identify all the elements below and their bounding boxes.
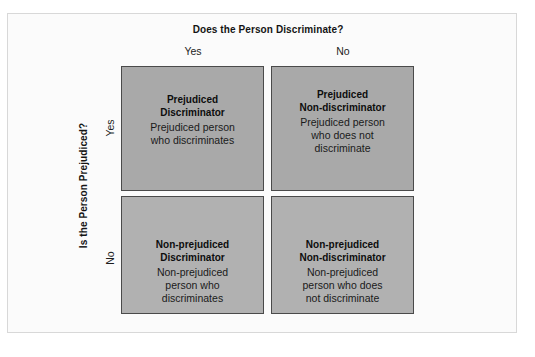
row-label-no: No	[104, 198, 116, 318]
row-label-yes: Yes	[104, 68, 116, 188]
quadrant-description: Prejudiced person who discriminates	[150, 121, 235, 147]
quadrant-non-prejudiced-discriminator: Non-prejudiced Discriminator Non-prejudi…	[121, 196, 264, 314]
column-label-yes: Yes	[122, 45, 264, 57]
row-axis-title: Is the Person Prejudiced?	[78, 76, 89, 296]
figure-root: Does the Person Discriminate? Yes No Is …	[0, 0, 535, 357]
quadrant-description: Non-prejudiced person who does not discr…	[303, 266, 383, 305]
quadrant-non-prejudiced-non-discriminator: Non-prejudiced Non-discriminator Non-pre…	[271, 196, 414, 314]
quadrant-title: Prejudiced Non-discriminator	[299, 89, 385, 114]
quadrant-prejudiced-discriminator: Prejudiced Discriminator Prejudiced pers…	[121, 66, 264, 191]
quadrant-title: Non-prejudiced Discriminator	[156, 239, 229, 264]
quadrant-description: Non-prejudiced person who discriminates	[157, 266, 228, 305]
quadrant-description: Prejudiced person who does not discrimin…	[300, 116, 385, 155]
column-label-no: No	[272, 45, 414, 57]
column-axis-title: Does the Person Discriminate?	[122, 24, 414, 35]
quadrant-prejudiced-non-discriminator: Prejudiced Non-discriminator Prejudiced …	[271, 66, 414, 191]
quadrant-title: Non-prejudiced Non-discriminator	[299, 239, 385, 264]
quadrant-title: Prejudiced Discriminator	[160, 94, 224, 119]
